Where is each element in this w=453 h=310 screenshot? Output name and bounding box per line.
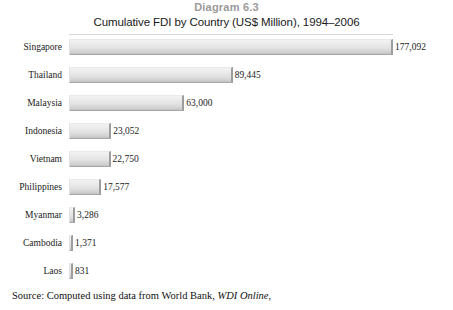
category-label: Cambodia [0,238,62,249]
chart-title: Cumulative FDI by Country (US$ Million),… [0,15,453,29]
source-prefix: Source: Computed using data from World B… [12,290,217,301]
category-label: Laos [0,266,62,277]
bar-row: Philippines17,577 [0,173,453,201]
value-label: 177,092 [393,42,426,53]
value-label: 3,286 [75,210,98,221]
category-label: Myanmar [0,210,62,221]
chart-plot-area: Singapore177,092Thailand89,445Malaysia63… [0,34,453,278]
bar-row: Indonesia23,052 [0,117,453,145]
bar-row: Malaysia63,000 [0,89,453,117]
source-note: Source: Computed using data from World B… [12,289,271,302]
bar-row: Myanmar3,286 [0,201,453,229]
figure-container: Diagram 6.3 Cumulative FDI by Country (U… [0,0,453,310]
source-suffix: , [268,290,271,301]
bar[interactable] [69,95,184,111]
value-label: 1,371 [73,238,96,249]
category-label: Singapore [0,42,62,53]
bar-row: Singapore177,092 [0,33,453,61]
bar-row: Cambodia1,371 [0,229,453,257]
bar-row: Thailand89,445 [0,61,453,89]
category-label: Philippines [0,182,62,193]
category-label: Thailand [0,70,62,81]
value-label: 23,052 [111,126,139,137]
source-publication: WDI Online [217,290,268,301]
bar-row: Laos831 [0,257,453,285]
bar-row: Vietnam22,750 [0,145,453,173]
bar[interactable] [69,151,111,167]
bar[interactable] [69,67,233,83]
value-label: 831 [73,266,89,277]
diagram-number-label: Diagram 6.3 [0,1,453,14]
bar[interactable] [69,123,111,139]
category-label: Indonesia [0,126,62,137]
value-label: 17,577 [101,182,129,193]
value-label: 89,445 [233,70,261,81]
bar[interactable] [69,179,101,195]
bar[interactable] [69,39,393,55]
category-label: Vietnam [0,154,62,165]
value-label: 63,000 [184,98,212,109]
value-label: 22,750 [111,154,139,165]
category-label: Malaysia [0,98,62,109]
